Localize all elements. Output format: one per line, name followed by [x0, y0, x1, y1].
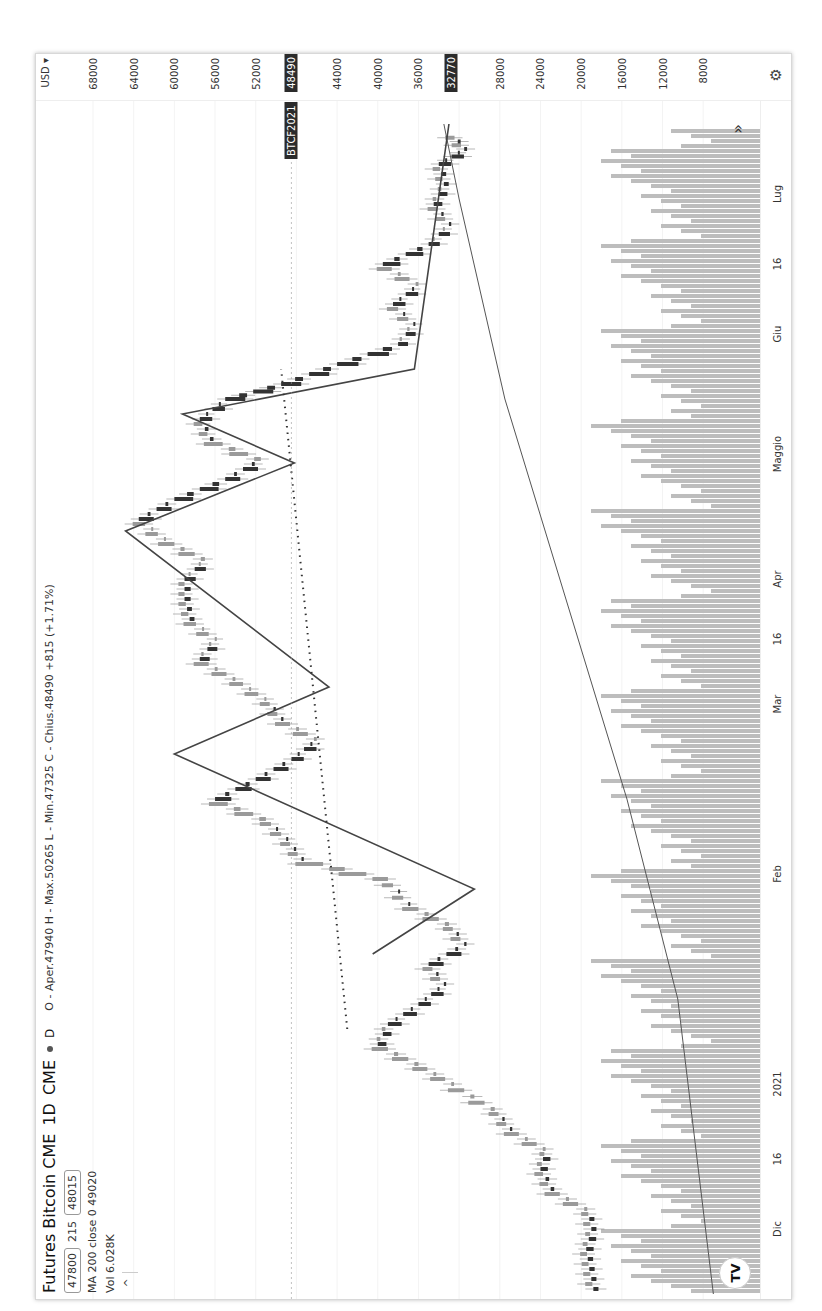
market-status-dot-icon: [47, 1046, 53, 1052]
symbol-badge: BTCF2021: [285, 102, 298, 159]
ma-indicator-label: MA 200 close 0 49020: [86, 1171, 99, 1293]
ma-indicator-legend[interactable]: MA 200 close 0 49020: [86, 584, 99, 1293]
price-tick-label: 16000: [616, 58, 627, 90]
price-tick-label: 64000: [128, 58, 139, 90]
volume-indicator-label: Vol 6.028K: [104, 1234, 117, 1293]
price-tick-label: 60000: [169, 58, 180, 90]
interval-short: D: [43, 1029, 57, 1038]
time-tick-label: Giu: [772, 326, 783, 343]
time-tick-label: Apr: [772, 570, 783, 587]
price-tick-label: 8000: [698, 58, 709, 83]
price-tick-label: 12000: [657, 58, 668, 90]
time-axis[interactable]: Dic162021FebMar16AprMaggioGiu16Lug: [760, 100, 791, 1299]
quote-row: 47800 215 48015: [64, 584, 81, 1293]
currency-selector[interactable]: USD ▾: [40, 58, 51, 88]
price-tick-label: 20000: [576, 58, 587, 90]
price-tick-label: 28000: [494, 58, 505, 90]
time-tick-label: Lug: [772, 185, 783, 203]
price-axis[interactable]: USD ▾ 6800064000600005600052000440004000…: [36, 54, 791, 101]
time-tick-label: 16: [772, 258, 783, 271]
price-tick-label: 44000: [332, 58, 343, 90]
time-tick-label: Mar: [772, 695, 783, 714]
time-tick-label: 16: [772, 633, 783, 646]
time-tick-label: Maggio: [772, 436, 783, 472]
time-tick-label: Feb: [772, 865, 783, 883]
price-tick-label: 24000: [535, 58, 546, 90]
price-tick-label: 40000: [372, 58, 383, 90]
price-badge: 32770: [445, 54, 458, 92]
symbol-title[interactable]: Futures Bitcoin CME: [40, 1134, 59, 1293]
spread-value: 215: [66, 1221, 79, 1242]
price-tick-label: 36000: [413, 58, 424, 90]
price-tick-label: 52000: [250, 58, 261, 90]
ask-button[interactable]: 48015: [64, 1170, 81, 1215]
time-tick-label: 2021: [772, 1071, 783, 1096]
chart-panel[interactable]: Futures Bitcoin CME 1D CME D O - Aper.47…: [35, 53, 792, 1300]
time-tick-label: 16: [772, 1153, 783, 1166]
title-row: Futures Bitcoin CME 1D CME D O - Aper.47…: [40, 584, 59, 1293]
exchange-label: CME: [40, 1060, 59, 1095]
price-badge: 48490: [285, 54, 298, 92]
scroll-to-realtime-icon[interactable]: »: [728, 124, 747, 134]
price-chart[interactable]: [36, 54, 791, 1299]
ohlc-values: O - Aper.47940 H - Max.50265 L - Min.473…: [43, 584, 56, 1010]
price-tick-label: 68000: [88, 58, 99, 90]
collapse-legend-button[interactable]: ^: [122, 1272, 138, 1293]
gear-icon[interactable]: ⚙: [767, 68, 785, 81]
tradingview-logo-icon[interactable]: TV: [719, 1257, 751, 1289]
time-tick-label: Dic: [772, 1221, 783, 1237]
interval-label[interactable]: 1D: [40, 1103, 59, 1126]
volume-indicator-legend[interactable]: Vol 6.028K: [104, 584, 117, 1293]
bid-button[interactable]: 47800: [64, 1248, 81, 1293]
chevron-up-icon: ^: [122, 1278, 135, 1287]
chart-legend: Futures Bitcoin CME 1D CME D O - Aper.47…: [40, 584, 138, 1293]
price-tick-label: 56000: [210, 58, 221, 90]
